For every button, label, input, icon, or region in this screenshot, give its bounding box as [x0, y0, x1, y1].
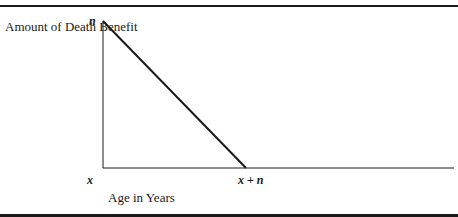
y-tick-label-n: n [89, 14, 96, 28]
x-tick-label-x: x [86, 173, 93, 187]
series-layer [103, 21, 246, 168]
x-axis-label: Age in Years [108, 190, 175, 206]
chart-area: n x x + n [0, 0, 458, 217]
series-line-0 [103, 21, 246, 168]
x-tick-label-x-plus-n: x + n [237, 173, 264, 187]
bottom-rule [0, 214, 458, 217]
